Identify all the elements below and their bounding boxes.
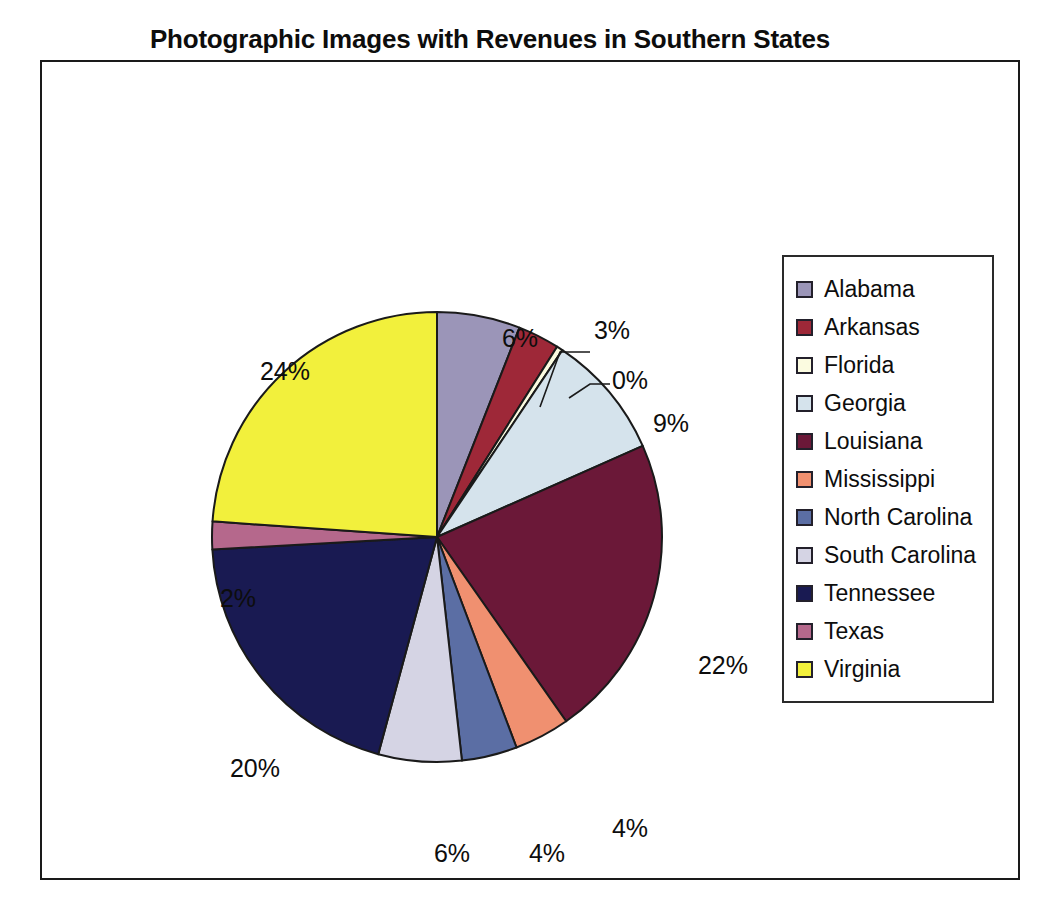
legend-item-label: Alabama bbox=[824, 278, 915, 301]
legend-item[interactable]: South Carolina bbox=[796, 536, 976, 574]
legend-item-label: Tennessee bbox=[824, 582, 935, 605]
legend-swatch-icon bbox=[796, 357, 813, 374]
legend-swatch-icon bbox=[796, 623, 813, 640]
legend-swatch-icon bbox=[796, 281, 813, 298]
legend-item[interactable]: North Carolina bbox=[796, 498, 976, 536]
pie-data-label: 6% bbox=[434, 839, 470, 867]
legend-item-label: Florida bbox=[824, 354, 894, 377]
pie-data-label: 20% bbox=[230, 754, 280, 782]
pie-data-label: 0% bbox=[612, 366, 648, 394]
legend-swatch-icon bbox=[796, 661, 813, 678]
pie-data-label: 24% bbox=[260, 357, 310, 385]
legend-item[interactable]: Tennessee bbox=[796, 574, 976, 612]
legend-swatch-icon bbox=[796, 509, 813, 526]
pie-data-label: 2% bbox=[220, 584, 256, 612]
legend-item[interactable]: Alabama bbox=[796, 270, 976, 308]
legend-item-label: Arkansas bbox=[824, 316, 920, 339]
legend-swatch-icon bbox=[796, 471, 813, 488]
chart-title: Photographic Images with Revenues in Sou… bbox=[120, 22, 860, 58]
legend-item[interactable]: Mississippi bbox=[796, 460, 976, 498]
legend-item[interactable]: Arkansas bbox=[796, 308, 976, 346]
pie-chart-figure: 6%3%0%9%22%4%4%6%20%2%24% Photographic I… bbox=[0, 0, 1058, 915]
legend-item-label: Mississippi bbox=[824, 468, 935, 491]
pie-data-label: 22% bbox=[698, 651, 748, 679]
pie-data-label: 4% bbox=[612, 814, 648, 842]
legend-swatch-icon bbox=[796, 395, 813, 412]
pie-data-label: 6% bbox=[502, 324, 538, 352]
legend-item[interactable]: Virginia bbox=[796, 650, 976, 688]
legend-item[interactable]: Texas bbox=[796, 612, 976, 650]
pie-data-label: 3% bbox=[594, 316, 630, 344]
legend-swatch-icon bbox=[796, 319, 813, 336]
legend-item-label: Louisiana bbox=[824, 430, 922, 453]
legend-swatch-icon bbox=[796, 433, 813, 450]
pie-data-label: 9% bbox=[653, 409, 689, 437]
legend-swatch-icon bbox=[796, 547, 813, 564]
legend-swatch-icon bbox=[796, 585, 813, 602]
legend-item-label: Virginia bbox=[824, 658, 900, 681]
legend-item-label: Texas bbox=[824, 620, 884, 643]
legend-item-label: North Carolina bbox=[824, 506, 972, 529]
legend-item-label: South Carolina bbox=[824, 544, 976, 567]
legend-item[interactable]: Florida bbox=[796, 346, 976, 384]
pie-data-label: 4% bbox=[529, 839, 565, 867]
chart-legend: AlabamaArkansasFloridaGeorgiaLouisianaMi… bbox=[782, 255, 994, 703]
legend-item-label: Georgia bbox=[824, 392, 906, 415]
legend-item[interactable]: Louisiana bbox=[796, 422, 976, 460]
legend-item[interactable]: Georgia bbox=[796, 384, 976, 422]
pie-slice[interactable] bbox=[213, 312, 437, 537]
